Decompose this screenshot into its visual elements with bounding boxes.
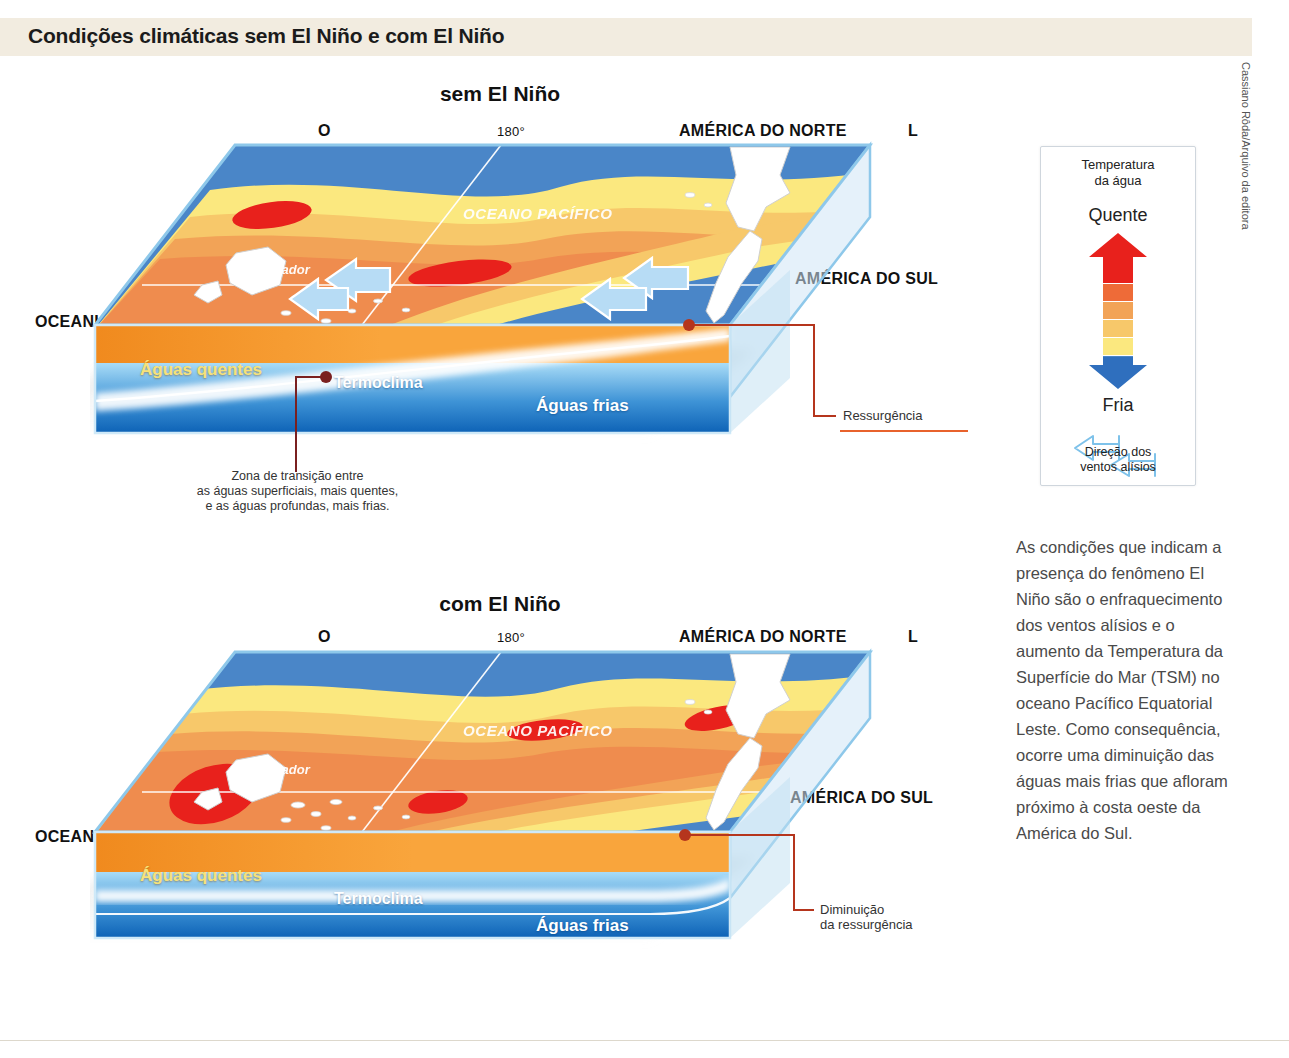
legend-wind-line-1: Direção dos <box>1041 445 1195 460</box>
legend-title-line-2: da água <box>1041 173 1195 189</box>
callout-upwelling-top <box>680 316 1000 446</box>
temperature-scale-arrow-icon <box>1087 231 1149 391</box>
legend-box: Temperatura da água Quente Fria Direção … <box>1040 146 1196 486</box>
explanatory-paragraph: As condições que indicam a presença do f… <box>1016 534 1230 846</box>
callout-line-1: Diminuição <box>820 902 913 917</box>
legend-title-line-1: Temperatura <box>1041 157 1195 173</box>
callout-underline-top <box>840 430 968 432</box>
page-title: Condições climáticas sem El Niño e com E… <box>28 24 504 48</box>
callout-label-upwelling-top: Ressurgência <box>843 408 923 423</box>
panel-title-sem-el-nino: sem El Niño <box>380 82 620 106</box>
callout-transition-zone-line <box>240 368 360 478</box>
infographic-page: Condições climáticas sem El Niño e com E… <box>0 0 1289 1058</box>
legend-title: Temperatura da água <box>1041 157 1195 189</box>
panel-title-com-el-nino: com El Niño <box>380 592 620 616</box>
image-credit: Cassiano Rôda/Arquivo da editora <box>1240 62 1252 312</box>
legend-wind-label: Direção dos ventos alísios <box>1041 445 1195 475</box>
note-line-3: e as águas profundas, mais frias. <box>160 499 435 514</box>
legend-wind-line-2: ventos alísios <box>1041 460 1195 475</box>
callout-line-2: da ressurgência <box>820 917 913 932</box>
callout-label-reduced-upwelling: Diminuição da ressurgência <box>820 902 913 932</box>
bottom-divider <box>0 1040 1289 1041</box>
legend-cold-label: Fria <box>1041 395 1195 416</box>
note-transition-zone: Zona de transição entre as águas superfi… <box>160 469 435 514</box>
legend-hot-label: Quente <box>1041 205 1195 226</box>
note-line-1: Zona de transição entre <box>160 469 435 484</box>
note-line-2: as águas superficiais, mais quentes, <box>160 484 435 499</box>
